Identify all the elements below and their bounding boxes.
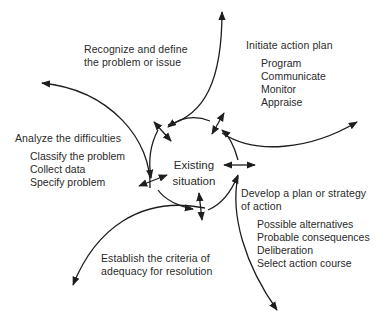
inner-arrow-from-top [168, 118, 210, 127]
center-line2: situation [170, 173, 218, 189]
recognize-title-line1: Recognize and define [84, 43, 188, 56]
develop-item: Possible alternatives [257, 218, 370, 231]
initiate-item: Monitor [261, 83, 326, 96]
stage-analyze-title: Analyze the difficulties [15, 132, 121, 145]
develop-item: Select action course [257, 257, 370, 270]
existing-situation: Existing situation [170, 157, 218, 189]
initiate-item: Program [261, 57, 326, 70]
stage-initiate-items: Program Communicate Monitor Appraise [261, 57, 326, 109]
analyze-item: Collect data [30, 163, 125, 176]
initiate-item: Communicate [261, 70, 326, 83]
stage-analyze-items: Classify the problem Collect data Specif… [30, 150, 125, 189]
double-arrow-left [139, 175, 167, 186]
stage-establish: Establish the criteria of adequacy for r… [101, 252, 212, 278]
arrow-to-initiate-right [222, 122, 357, 147]
analyze-item: Specify problem [30, 176, 125, 189]
center-line1: Existing [170, 157, 218, 173]
initiate-item: Appraise [261, 96, 326, 109]
develop-item: Deliberation [257, 244, 370, 257]
recognize-title-line2: the problem or issue [84, 56, 188, 69]
establish-title-line1: Establish the criteria of [101, 252, 212, 265]
stage-initiate-title: Initiate action plan [246, 39, 333, 52]
stage-recognize: Recognize and define the problem or issu… [84, 43, 188, 69]
develop-title-line1: Develop a plan or strategy [241, 187, 366, 200]
stage-develop-items: Possible alternatives Probable consequen… [257, 218, 370, 270]
analyze-item: Classify the problem [30, 150, 125, 163]
develop-title-line2: of action [241, 200, 366, 213]
develop-item: Probable consequences [257, 231, 370, 244]
inner-arrow-from-left [150, 130, 158, 178]
stage-develop-title: Develop a plan or strategy of action [241, 187, 366, 213]
establish-title-line2: adequacy for resolution [101, 265, 212, 278]
